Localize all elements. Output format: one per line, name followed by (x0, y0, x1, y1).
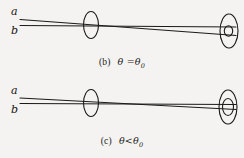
ray-label-a-panel-b: a (11, 6, 18, 17)
ray-b-line-b (20, 26, 236, 28)
ray-b-line-c (20, 104, 236, 105)
figure-root: a b (b)θ =θ0 a b (c)θ<θ0 (0, 0, 244, 158)
ray-label-b-panel-b: b (11, 25, 18, 36)
caption-expression-b: θ =θ0 (118, 56, 146, 67)
ray-diagram-c (0, 79, 244, 135)
caption-expr-text-c: θ<θ (119, 135, 139, 146)
ray-label-b-panel-c: b (11, 104, 18, 115)
caption-subscript-b: 0 (141, 62, 145, 70)
caption-subscript-c: 0 (139, 141, 143, 149)
focal-spot-right-c (223, 99, 234, 116)
caption-expression-c: θ<θ0 (119, 135, 143, 146)
ray-diagram-b (0, 0, 244, 56)
caption-panel-c: (c)θ<θ0 (0, 135, 244, 149)
figure-panel-c: a b (c)θ<θ0 (0, 79, 244, 158)
caption-expr-text-b: θ =θ (118, 56, 141, 67)
ray-label-a-panel-c: a (11, 85, 18, 96)
caption-tag-c: (c) (101, 136, 112, 146)
aperture-right-b (220, 14, 238, 48)
figure-panel-b: a b (b)θ =θ0 (0, 0, 244, 79)
aperture-right-c (219, 90, 237, 124)
caption-tag-b: (b) (99, 57, 111, 67)
caption-panel-b: (b)θ =θ0 (0, 56, 244, 70)
aperture-middle-c (84, 90, 99, 117)
ray-a-line-b (20, 20, 236, 36)
